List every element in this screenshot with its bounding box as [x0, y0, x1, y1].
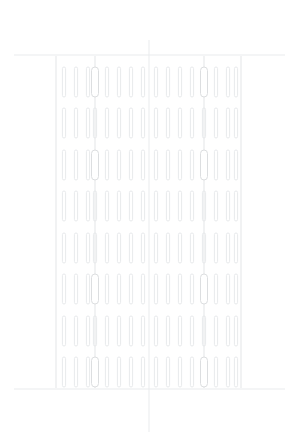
- slot-r3-c10: [166, 150, 169, 180]
- slot-r4-c15: [226, 191, 229, 221]
- slot-r1-c15: [226, 67, 229, 97]
- slot-r6-c3: [86, 274, 89, 304]
- slot-r2-c15: [226, 108, 229, 138]
- slot-r6-c16: [234, 274, 237, 304]
- slot-r1-c2: [74, 67, 77, 97]
- slot-r3-c11: [178, 150, 181, 180]
- slot-r6-c8: [141, 274, 144, 304]
- slot-r2-c1: [62, 108, 65, 138]
- slot-r6-c9: [154, 274, 157, 304]
- slot-r8-c2: [74, 357, 77, 387]
- slot-r4-c8: [141, 191, 144, 221]
- slot-r2-c3: [86, 108, 89, 138]
- capsule-r1-s2: [201, 67, 208, 97]
- slot-r8-c10: [166, 357, 169, 387]
- slot-r4-c3: [86, 191, 89, 221]
- slot-r2-c8: [141, 108, 144, 138]
- slot-r8-c16: [234, 357, 237, 387]
- slot-r5-c3: [86, 233, 89, 263]
- slot-r4-c11: [178, 191, 181, 221]
- slot-r2-c16: [234, 108, 237, 138]
- slot-r8-c12: [190, 357, 193, 387]
- slot-r1-c3: [86, 67, 89, 97]
- slot-r6-c7: [129, 274, 132, 304]
- slot-r3-c9: [154, 150, 157, 180]
- slot-r2-c11: [178, 108, 181, 138]
- slot-r7-c7: [129, 316, 132, 346]
- slot-r7-c16: [234, 316, 237, 346]
- slot-r4-c16: [234, 191, 237, 221]
- slot-r5-c16: [234, 233, 237, 263]
- slot-r7-c1: [62, 316, 65, 346]
- slot-r8-c8: [141, 357, 144, 387]
- slot-r4-c5: [105, 191, 108, 221]
- slot-r1-c7: [129, 67, 132, 97]
- slot-r2-c12: [190, 108, 193, 138]
- slot-r3-c8: [141, 150, 144, 180]
- slot-r6-c11: [178, 274, 181, 304]
- slot-r8-c1: [62, 357, 65, 387]
- slot-r1-c9: [154, 67, 157, 97]
- slot-r1-c10: [166, 67, 169, 97]
- slot-r7-c10: [166, 316, 169, 346]
- slot-r8-c14: [214, 357, 217, 387]
- slot-r7-c11: [178, 316, 181, 346]
- slot-r5-c12: [190, 233, 193, 263]
- slot-r5-c9: [154, 233, 157, 263]
- technical-drawing-canvas: Perforated Panel Assembly Front Elevatio…: [0, 0, 299, 447]
- slot-r2-c9: [154, 108, 157, 138]
- slot-r1-c8: [141, 67, 144, 97]
- slot-r5-c5: [105, 233, 108, 263]
- capsule-r3-s1: [92, 150, 99, 180]
- slot-r7-c12: [190, 316, 193, 346]
- slot-r5-c7: [129, 233, 132, 263]
- slot-r3-c1: [62, 150, 65, 180]
- slot-r4-c6: [117, 191, 120, 221]
- slot-r1-c11: [178, 67, 181, 97]
- slot-r1-c14: [214, 67, 217, 97]
- slot-r2-c7: [129, 108, 132, 138]
- slot-r6-c1: [62, 274, 65, 304]
- slot-r6-c12: [190, 274, 193, 304]
- slot-r5-c2: [74, 233, 77, 263]
- slot-r7-c9: [154, 316, 157, 346]
- slot-r8-c11: [178, 357, 181, 387]
- slot-r1-c1: [62, 67, 65, 97]
- slot-r6-c2: [74, 274, 77, 304]
- slot-r8-c5: [105, 357, 108, 387]
- slot-r4-c7: [129, 191, 132, 221]
- slot-grid-layer: [62, 67, 237, 387]
- slot-r3-c14: [214, 150, 217, 180]
- slot-r8-c7: [129, 357, 132, 387]
- slot-r6-c6: [117, 274, 120, 304]
- slot-r5-c1: [62, 233, 65, 263]
- slot-r3-c2: [74, 150, 77, 180]
- slot-r1-c5: [105, 67, 108, 97]
- slot-r7-c5: [105, 316, 108, 346]
- slot-r5-c6: [117, 233, 120, 263]
- capsule-r6-s2: [201, 274, 208, 304]
- slot-r7-c8: [141, 316, 144, 346]
- slot-r4-c10: [166, 191, 169, 221]
- slot-r7-c15: [226, 316, 229, 346]
- slot-r7-c14: [214, 316, 217, 346]
- slot-r4-c12: [190, 191, 193, 221]
- slot-r8-c9: [154, 357, 157, 387]
- slot-r8-c3: [86, 357, 89, 387]
- slot-r4-c9: [154, 191, 157, 221]
- slot-r4-c2: [74, 191, 77, 221]
- slot-r3-c15: [226, 150, 229, 180]
- slot-r1-c6: [117, 67, 120, 97]
- slot-r6-c15: [226, 274, 229, 304]
- slot-r4-c1: [62, 191, 65, 221]
- slot-r5-c14: [214, 233, 217, 263]
- slot-r5-c15: [226, 233, 229, 263]
- capsule-r8-s1: [92, 357, 99, 387]
- slot-r3-c3: [86, 150, 89, 180]
- capsule-r1-s1: [92, 67, 99, 97]
- slot-r1-c12: [190, 67, 193, 97]
- panel-assembly-drawing: [0, 0, 299, 447]
- slot-r5-c8: [141, 233, 144, 263]
- slot-r3-c16: [234, 150, 237, 180]
- capsule-r6-s1: [92, 274, 99, 304]
